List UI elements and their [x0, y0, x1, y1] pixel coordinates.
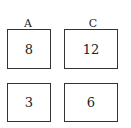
box-bottom-right: 6: [64, 83, 118, 122]
box-value: 12: [83, 42, 100, 57]
column-label-c: C: [83, 18, 103, 29]
box-bottom-left: 3: [7, 83, 51, 122]
box-top-right: 12: [64, 29, 118, 69]
box-value: 3: [25, 95, 33, 110]
column-label-a: A: [18, 18, 38, 29]
box-top-left: 8: [7, 29, 51, 69]
box-value: 6: [87, 95, 95, 110]
box-value: 8: [25, 42, 33, 57]
